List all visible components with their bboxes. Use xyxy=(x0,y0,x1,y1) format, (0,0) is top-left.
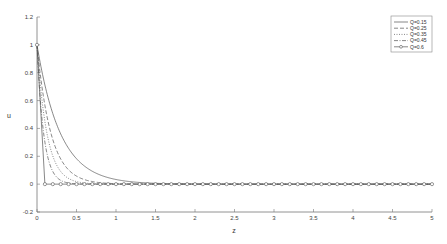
x-tick-label: 2 xyxy=(193,215,197,221)
circle-marker xyxy=(114,183,117,186)
series-line-q-0-45 xyxy=(37,45,432,184)
circle-marker xyxy=(35,43,38,46)
circle-marker xyxy=(272,183,275,186)
x-tick-label: 1.5 xyxy=(151,215,160,221)
y-tick-label: 0.4 xyxy=(25,125,34,131)
series-group xyxy=(35,43,433,185)
circle-marker xyxy=(423,183,426,186)
y-axis-label: u xyxy=(7,112,11,119)
circle-marker xyxy=(241,183,244,186)
circle-marker xyxy=(367,183,370,186)
circle-marker xyxy=(304,183,307,186)
circle-marker xyxy=(407,183,410,186)
circle-marker xyxy=(288,183,291,186)
legend-label: Q=0.6 xyxy=(410,44,424,50)
circle-marker xyxy=(399,183,402,186)
circle-marker xyxy=(383,183,386,186)
circle-marker xyxy=(359,183,362,186)
y-tick-label: -0.2 xyxy=(23,209,34,215)
circle-marker xyxy=(130,183,133,186)
x-tick-label: 3.5 xyxy=(309,215,318,221)
legend-label: Q=0.15 xyxy=(410,19,427,25)
circle-marker xyxy=(328,183,331,186)
circle-marker xyxy=(249,183,252,186)
legend-label: Q=0.25 xyxy=(410,25,427,31)
x-tick-label: 4.5 xyxy=(388,215,397,221)
circle-marker xyxy=(75,183,78,186)
x-tick-label: 5 xyxy=(430,215,434,221)
x-tick-label: 3 xyxy=(272,215,276,221)
x-tick-label: 2.5 xyxy=(230,215,239,221)
series-line-q-0-35 xyxy=(37,45,432,184)
circle-marker xyxy=(217,183,220,186)
circle-marker xyxy=(91,183,94,186)
y-tick-label: 0.2 xyxy=(25,153,34,159)
y-tick-label: 0.6 xyxy=(25,98,34,104)
circle-marker xyxy=(170,183,173,186)
circle-marker xyxy=(209,183,212,186)
legend-circle-marker xyxy=(400,45,403,48)
circle-marker xyxy=(257,183,260,186)
series-line-q-0-15 xyxy=(37,45,432,184)
circle-marker xyxy=(320,183,323,186)
circle-marker xyxy=(415,183,418,186)
circle-marker xyxy=(193,183,196,186)
circle-marker xyxy=(178,183,181,186)
legend-label: Q=0.35 xyxy=(410,31,427,37)
x-tick-label: 0.5 xyxy=(72,215,81,221)
x-tick-label: 0 xyxy=(35,215,39,221)
legend: Q=0.15Q=0.25Q=0.35Q=0.45Q=0.6 xyxy=(391,16,432,52)
x-axis-label: z xyxy=(232,227,236,234)
circle-marker xyxy=(375,183,378,186)
x-tick-label: 1 xyxy=(114,215,118,221)
circle-marker xyxy=(430,183,433,186)
x-tick-label: 4 xyxy=(351,215,355,221)
y-tick-label: 0 xyxy=(30,181,34,187)
circle-marker xyxy=(312,183,315,186)
circle-marker xyxy=(201,183,204,186)
circle-marker xyxy=(51,183,54,186)
axes: 00.511.522.533.544.55-0.200.20.40.60.811… xyxy=(23,14,435,221)
circle-marker xyxy=(265,183,268,186)
circle-marker xyxy=(59,183,62,186)
y-tick-label: 1.2 xyxy=(25,14,34,20)
circle-marker xyxy=(225,183,228,186)
circle-marker xyxy=(391,183,394,186)
line-chart: 00.511.522.533.544.55-0.200.20.40.60.811… xyxy=(0,0,447,244)
circle-marker xyxy=(83,183,86,186)
circle-marker xyxy=(138,183,141,186)
series-line-q-0-25 xyxy=(37,45,432,184)
circle-marker xyxy=(99,183,102,186)
circle-marker xyxy=(67,183,70,186)
circle-marker xyxy=(107,183,110,186)
series-line-q-0-6 xyxy=(37,45,432,184)
circle-marker xyxy=(154,183,157,186)
circle-marker xyxy=(162,183,165,186)
circle-marker xyxy=(351,183,354,186)
y-tick-label: 0.8 xyxy=(25,70,34,76)
circle-marker xyxy=(186,183,189,186)
y-tick-label: 1 xyxy=(30,42,34,48)
circle-marker xyxy=(233,183,236,186)
circle-marker xyxy=(280,183,283,186)
circle-marker xyxy=(336,183,339,186)
circle-marker xyxy=(122,183,125,186)
circle-marker xyxy=(146,183,149,186)
circle-marker xyxy=(43,183,46,186)
legend-label: Q=0.45 xyxy=(410,37,427,43)
circle-marker xyxy=(296,183,299,186)
circle-marker xyxy=(344,183,347,186)
